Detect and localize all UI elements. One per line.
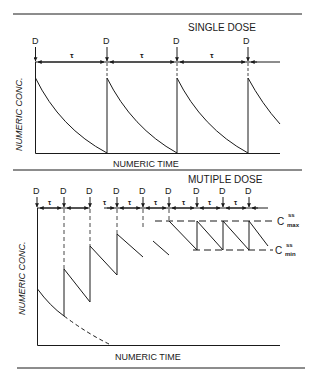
- css-min-c: C: [275, 245, 282, 256]
- css-min-super: ss: [286, 242, 293, 248]
- tau-label: τ: [182, 199, 186, 206]
- concentration-curves: [36, 78, 281, 153]
- dose-label: D: [245, 186, 252, 196]
- single-dose-title: SINGLE DOSE: [188, 22, 256, 33]
- tau-label: τ: [234, 199, 238, 206]
- first-dose-decay: [64, 316, 111, 345]
- dose-label: D: [103, 36, 110, 46]
- dose-label: D: [60, 186, 67, 196]
- y-axis-label: NUMERIC CONC.: [14, 78, 24, 152]
- multiple-dose-panel: MUTIPLE DOSE D D D D D D D D D: [17, 174, 305, 368]
- dose-label: D: [173, 36, 180, 46]
- dose-guides: [107, 63, 248, 78]
- dose-label: D: [193, 186, 200, 196]
- tau-label: τ: [70, 51, 74, 60]
- dose-labels: D D D D D D D D D: [33, 186, 252, 196]
- x-axis-label: NUMERIC TIME: [113, 159, 179, 169]
- single-dose-panel: SINGLE DOSE D D D D τ τ τ NUMERIC CONC. …: [13, 14, 302, 170]
- multiple-dose-title: MUTIPLE DOSE: [188, 174, 263, 185]
- dose-label: D: [33, 186, 40, 196]
- tau-label: τ: [48, 199, 52, 206]
- y-axis-label: NUMERIC CONC.: [17, 242, 27, 316]
- dose-label: D: [219, 186, 226, 196]
- x-axis-label: NUMERIC TIME: [115, 352, 181, 362]
- dosing-diagram: SINGLE DOSE D D D D τ τ τ NUMERIC CONC. …: [0, 0, 315, 374]
- tau-label: τ: [210, 51, 214, 60]
- dose-label: D: [243, 36, 250, 46]
- tau-label: τ: [154, 199, 158, 206]
- css-min-label: C ss min: [275, 242, 296, 257]
- dose-label: D: [32, 36, 39, 46]
- css-max-super: ss: [288, 212, 295, 218]
- css-min-sub: min: [285, 251, 296, 257]
- dose-label: D: [86, 186, 93, 196]
- tau-label: τ: [103, 199, 107, 206]
- accumulation-curves: [38, 221, 269, 316]
- dose-label: D: [165, 186, 172, 196]
- tau-label: τ: [208, 199, 212, 206]
- dose-label: D: [139, 186, 146, 196]
- dose-arrows: [37, 197, 249, 207]
- css-max-label: C ss max: [277, 212, 300, 228]
- css-max-c: C: [277, 216, 284, 227]
- dose-label: D: [113, 186, 120, 196]
- tau-label: τ: [140, 51, 144, 60]
- css-max-sub: max: [287, 222, 300, 228]
- tau-label: τ: [128, 199, 132, 206]
